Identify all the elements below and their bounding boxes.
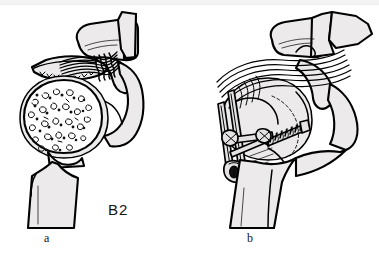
humeral-shaft-b [230, 158, 296, 228]
panel-a-group [20, 12, 143, 228]
fracture-classification-label: B2 [108, 201, 129, 218]
figure-canvas: B2 a b [0, 0, 379, 267]
panel-a-caption: a [44, 231, 50, 246]
wire-knot-mid-b [256, 129, 271, 143]
panel-b-group [217, 12, 372, 228]
panel-b-caption: b [247, 231, 253, 246]
lateral-mass-b [328, 84, 358, 150]
metaphyseal-flare-b [296, 150, 346, 176]
clavicle-b [329, 12, 372, 48]
medical-illustration-svg [0, 0, 379, 267]
top-border-band [0, 0, 379, 5]
humeral-head-cancellous-a [24, 80, 102, 153]
humeral-shaft-a [28, 162, 78, 228]
